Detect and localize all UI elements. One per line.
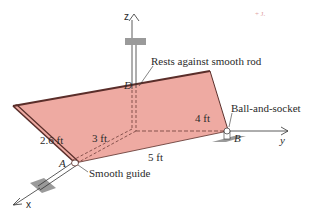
smooth-guide-collar-icon <box>72 160 79 166</box>
diagram-stage: z D Rests against smooth rod Ball-and-so… <box>0 0 311 213</box>
x-rod-line-1 <box>38 161 75 186</box>
dim-AB-label: 5 ft <box>148 152 163 163</box>
rod-annotation: Rests against smooth rod <box>151 56 261 67</box>
x-axis-arrowhead-icon <box>13 198 22 205</box>
dim-AO-label: 3 ft <box>92 133 107 144</box>
ball-socket-ball-icon <box>224 128 230 134</box>
x-axis-label: x <box>26 200 31 210</box>
corner-mark: + J. <box>255 10 265 18</box>
dim-height-label: 2.6 ft <box>40 135 63 146</box>
x-guide-support-block <box>30 178 56 193</box>
y-axis-label: y <box>280 135 285 146</box>
ball-socket-annotation: Ball-and-socket <box>231 103 301 114</box>
dim-OB-label: 4 ft <box>195 113 210 124</box>
guide-leader-line <box>78 165 88 172</box>
z-axis-arrowhead-icon <box>129 14 139 21</box>
z-rod-support-block <box>125 38 146 45</box>
point-D-label: D <box>124 80 132 91</box>
guide-annotation: Smooth guide <box>89 168 150 179</box>
point-A-label: A <box>59 158 66 169</box>
point-B-label: B <box>234 133 241 144</box>
z-axis-label: z <box>124 12 129 22</box>
ball-socket-leader-line <box>229 113 232 127</box>
